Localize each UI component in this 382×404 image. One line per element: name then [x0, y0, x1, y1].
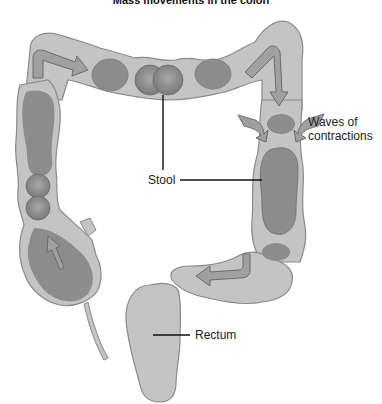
stool-ball-2	[153, 65, 183, 95]
appendix	[84, 302, 108, 360]
stool-ball-3	[26, 174, 50, 198]
colon-diagram	[0, 0, 382, 404]
label-rectum: Rectum	[195, 328, 236, 342]
stool-ball-4	[26, 196, 50, 220]
stool-descending-mass	[260, 148, 298, 235]
stool-transverse-right	[195, 59, 231, 89]
label-stool: Stool	[148, 173, 175, 187]
stool-descending-bottom	[262, 243, 290, 261]
label-waves-line2: contractions	[308, 129, 373, 143]
label-waves-line1: Waves of	[308, 115, 358, 129]
stool-descending-top	[267, 114, 295, 134]
rectum	[126, 283, 181, 402]
stool-transverse-left	[92, 59, 128, 91]
